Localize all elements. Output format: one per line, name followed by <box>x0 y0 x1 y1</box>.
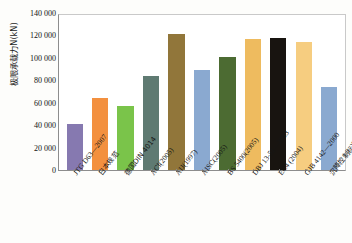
y-axis-tick-label: 80 000 <box>12 77 56 85</box>
y-axis-tick-label: 140 000 <box>12 10 56 18</box>
y-axis-tick-label: 0 <box>12 167 56 175</box>
x-axis-tick-label: 德国DIN 4014 <box>123 172 129 177</box>
x-axis-tick-label: GJB 4142—2000 <box>303 172 309 177</box>
x-axis-tick-label: DBJ 13-51—2003 <box>251 172 257 177</box>
x-axis-tick-label: 日本规范 <box>97 172 103 177</box>
x-axis-tick-label: BS 5400(2005) <box>226 172 232 177</box>
y-axis-tick-label: 60 000 <box>12 100 56 108</box>
y-axis-tick-label: 100 000 <box>12 55 56 63</box>
y-axis-tick-label: 20 000 <box>12 145 56 153</box>
bar-slot <box>62 15 87 170</box>
x-axis-tick-label: AISC(2005) <box>200 172 206 177</box>
y-axis-tick-labels: 140 000120 000100 00080 00060 00040 0002… <box>12 9 56 173</box>
x-axis-tick-label: 沉降控制标准 <box>328 172 334 177</box>
y-axis-tick-label: 40 000 <box>12 122 56 130</box>
y-axis-tick-label: 120 000 <box>12 32 56 40</box>
bar-slot <box>113 15 138 170</box>
bar-chart: 极限承载力N(kN) 140 000120 000100 00080 00060… <box>0 0 352 243</box>
x-axis-tick-labels: JTG D63—2007日本规范德国DIN 4014ACI(2005)AIJ(1… <box>58 172 346 243</box>
x-axis-tick-label: AIJ(1997) <box>174 172 180 177</box>
x-axis-tick-label: JTG D63—2007 <box>72 172 78 177</box>
x-axis-tick-label: ACI(2005) <box>149 172 155 177</box>
x-axis-tick-label: EC4 (2004) <box>277 172 283 177</box>
bar-slot <box>189 15 214 170</box>
